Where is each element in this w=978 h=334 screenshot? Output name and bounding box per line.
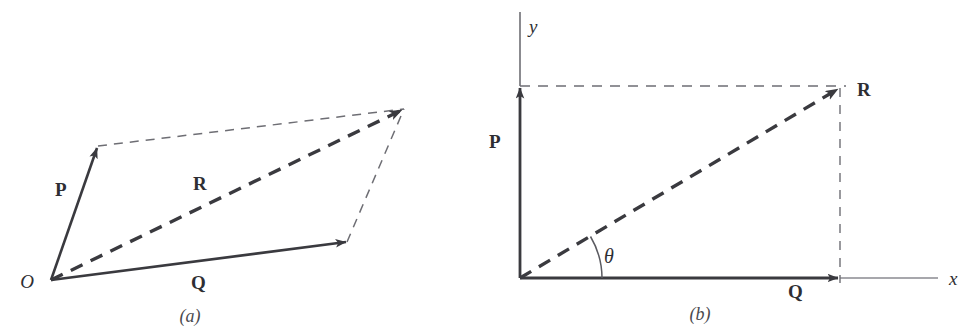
vector-label-p-b: P	[489, 131, 501, 152]
vector-r-shaft	[51, 110, 402, 280]
panel-b-caption: (b)	[690, 304, 711, 325]
x-axis-label: x	[948, 268, 958, 289]
vector-label-q: Q	[191, 272, 206, 293]
vector-label-r: R	[193, 173, 207, 194]
vector-label-p: P	[55, 179, 67, 200]
theta-arc	[591, 237, 603, 279]
figure-canvas: O P Q R (a) y x	[0, 0, 978, 334]
construction-line-p-to-resultant	[98, 109, 404, 146]
panel-a: O P Q R (a)	[20, 109, 404, 327]
construction-line-q-to-resultant	[347, 109, 404, 242]
vector-label-r-b: R	[857, 79, 871, 100]
vector-label-q-b: Q	[788, 281, 803, 302]
y-axis-label: y	[527, 16, 538, 37]
vector-p-shaft	[51, 148, 97, 280]
theta-label: θ	[604, 245, 614, 267]
vector-addition-figure: O P Q R (a) y x	[0, 0, 978, 334]
panel-b: y x P Q R θ (b)	[489, 12, 958, 325]
origin-label-o: O	[20, 271, 34, 292]
panel-a-caption: (a)	[180, 306, 201, 327]
vector-r-shaft-b	[520, 89, 838, 278]
